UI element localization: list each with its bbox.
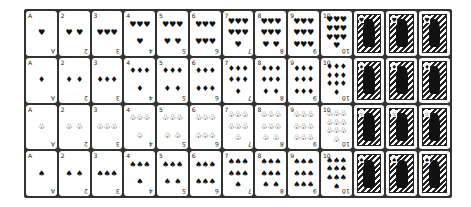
card-3-of-hearts[interactable]: 33♥♥♥ — [92, 11, 123, 56]
figure-icon — [363, 66, 374, 94]
card-2-of-clubs[interactable]: 22♧♧ — [59, 105, 90, 150]
spade-icon: ♠ — [260, 170, 267, 178]
card-j-of-diamonds[interactable]: ♦ — [354, 58, 385, 103]
card-a-of-hearts[interactable]: AA♥ — [26, 11, 57, 56]
figure-icon — [429, 66, 440, 94]
spade-icon: ♠ — [424, 156, 429, 163]
club-icon: ♧ — [274, 123, 281, 131]
spade-icon: ♠ — [176, 161, 183, 169]
card-j-of-hearts[interactable]: ♥ — [354, 11, 385, 56]
card-deck-grid: AA♥22♥♥33♥♥♥44♥♥♥♥55♥♥♥♥♥66♥♥♥♥♥♥77♥♥♥♥♥… — [24, 9, 452, 198]
heart-icon: ♥ — [209, 38, 216, 46]
card-9-of-diamonds[interactable]: 99♦♦♦♦♦♦♦♦♦ — [288, 58, 319, 103]
club-icon: ♧ — [273, 134, 280, 142]
card-k-of-spades[interactable]: ♠ — [419, 151, 450, 196]
card-3-of-spades[interactable]: 33♠♠♠ — [92, 151, 123, 196]
club-icon: ♧ — [359, 110, 364, 117]
club-icon: ♧ — [136, 132, 143, 140]
club-icon: ♧ — [235, 123, 242, 131]
card-6-of-hearts[interactable]: 66♥♥♥♥♥♥ — [190, 11, 221, 56]
card-a-of-spades[interactable]: AA♠ — [26, 151, 57, 196]
spade-icon: ♠ — [235, 170, 242, 178]
heart-icon: ♥ — [307, 41, 314, 49]
card-10-of-spades[interactable]: 1010♠♠♠♠♠♠♠♠♠♠ — [321, 151, 352, 196]
spade-icon: ♠ — [300, 181, 307, 189]
diamond-icon: ♦ — [260, 76, 267, 84]
card-3-of-diamonds[interactable]: 33♦♦♦ — [92, 58, 123, 103]
card-10-of-diamonds[interactable]: 1010♦♦♦♦♦♦♦♦♦♦ — [321, 58, 352, 103]
spade-icon: ♠ — [136, 161, 143, 169]
card-q-of-spades[interactable]: ♠ — [386, 151, 417, 196]
spade-icon: ♠ — [110, 170, 117, 178]
heart-icon: ♥ — [176, 21, 183, 29]
diamonds-pips: ♦ — [31, 63, 52, 98]
card-2-of-spades[interactable]: 22♠♠ — [59, 151, 90, 196]
heart-icon: ♥ — [293, 41, 300, 49]
diamond-icon: ♦ — [209, 67, 216, 75]
club-icon: ♧ — [174, 132, 181, 140]
card-2-of-diamonds[interactable]: 22♦♦ — [59, 58, 90, 103]
card-j-of-clubs[interactable]: ♧ — [354, 105, 385, 150]
heart-icon: ♥ — [359, 16, 364, 23]
card-a-of-clubs[interactable]: AA♧ — [26, 105, 57, 150]
spade-icon: ♠ — [241, 158, 248, 166]
figure-icon — [363, 19, 374, 47]
club-icon: ♧ — [235, 134, 242, 142]
card-2-of-hearts[interactable]: 22♥♥ — [59, 11, 90, 56]
card-5-of-hearts[interactable]: 55♥♥♥♥♥ — [157, 11, 188, 56]
spade-icon: ♠ — [103, 170, 110, 178]
card-8-of-diamonds[interactable]: 88♦♦♦♦♦♦♦♦ — [255, 58, 286, 103]
card-8-of-spades[interactable]: 88♠♠♠♠♠♠♠♠ — [255, 151, 286, 196]
diamond-icon: ♦ — [195, 67, 202, 75]
card-5-of-spades[interactable]: 55♠♠♠♠♠ — [157, 151, 188, 196]
card-k-of-diamonds[interactable]: ♦ — [419, 58, 450, 103]
card-5-of-clubs[interactable]: 55♧♧♧♧♧ — [157, 105, 188, 150]
diamond-icon: ♦ — [195, 85, 202, 93]
card-8-of-hearts[interactable]: 88♥♥♥♥♥♥♥♥ — [255, 11, 286, 56]
spade-icon: ♠ — [293, 170, 300, 178]
heart-icon: ♥ — [333, 42, 340, 50]
card-6-of-spades[interactable]: 66♠♠♠♠♠♠ — [190, 151, 221, 196]
spade-icon: ♠ — [97, 170, 104, 178]
card-j-of-spades[interactable]: ♠ — [354, 151, 385, 196]
heart-icon: ♥ — [307, 29, 314, 37]
club-icon: ♧ — [333, 110, 340, 118]
club-icon: ♧ — [136, 114, 143, 122]
card-7-of-spades[interactable]: 77♠♠♠♠♠♠♠ — [223, 151, 254, 196]
figure-icon — [363, 113, 374, 141]
club-icon: ♧ — [162, 114, 169, 122]
card-k-of-hearts[interactable]: ♥ — [419, 11, 450, 56]
heart-icon: ♥ — [169, 21, 176, 29]
card-9-of-hearts[interactable]: 99♥♥♥♥♥♥♥♥♥ — [288, 11, 319, 56]
figure-icon — [396, 19, 407, 47]
clubs-pips: ♧♧♧♧ — [129, 110, 150, 145]
card-4-of-diamonds[interactable]: 44♦♦♦♦ — [124, 58, 155, 103]
card-6-of-diamonds[interactable]: 66♦♦♦♦♦♦ — [190, 58, 221, 103]
card-a-of-diamonds[interactable]: AA♦ — [26, 58, 57, 103]
card-q-of-clubs[interactable]: ♧ — [386, 105, 417, 150]
spade-icon: ♠ — [241, 170, 248, 178]
card-4-of-clubs[interactable]: 44♧♧♧♧ — [124, 105, 155, 150]
card-9-of-spades[interactable]: 99♠♠♠♠♠♠♠♠♠ — [288, 151, 319, 196]
card-7-of-diamonds[interactable]: 77♦♦♦♦♦♦♦ — [223, 58, 254, 103]
club-icon: ♧ — [38, 123, 45, 131]
card-7-of-hearts[interactable]: 77♥♥♥♥♥♥♥ — [223, 11, 254, 56]
card-4-of-hearts[interactable]: 44♥♥♥♥ — [124, 11, 155, 56]
spade-icon: ♠ — [162, 161, 169, 169]
card-q-of-diamonds[interactable]: ♦ — [386, 58, 417, 103]
card-7-of-clubs[interactable]: 77♧♧♧♧♧♧♧ — [223, 105, 254, 150]
card-9-of-clubs[interactable]: 99♧♧♧♧♧♧♧♧♧ — [288, 105, 319, 150]
diamond-icon: ♦ — [340, 63, 347, 71]
card-10-of-hearts[interactable]: 1010♥♥♥♥♥♥♥♥♥♥ — [321, 11, 352, 56]
card-10-of-clubs[interactable]: 1010♧♧♧♧♧♧♧♧♧♧ — [321, 105, 352, 150]
card-k-of-clubs[interactable]: ♧ — [419, 105, 450, 150]
diamond-icon: ♦ — [176, 67, 183, 75]
card-4-of-spades[interactable]: 44♠♠♠♠ — [124, 151, 155, 196]
diamonds-pips: ♦♦♦♦♦♦ — [195, 63, 216, 98]
card-6-of-clubs[interactable]: 66♧♧♧♧♧♧ — [190, 105, 221, 150]
card-5-of-diamonds[interactable]: 55♦♦♦♦♦ — [157, 58, 188, 103]
card-q-of-hearts[interactable]: ♥ — [386, 11, 417, 56]
card-3-of-clubs[interactable]: 33♧♧♧ — [92, 105, 123, 150]
heart-icon: ♥ — [260, 29, 267, 37]
card-8-of-clubs[interactable]: 88♧♧♧♧♧♧♧♧ — [255, 105, 286, 150]
